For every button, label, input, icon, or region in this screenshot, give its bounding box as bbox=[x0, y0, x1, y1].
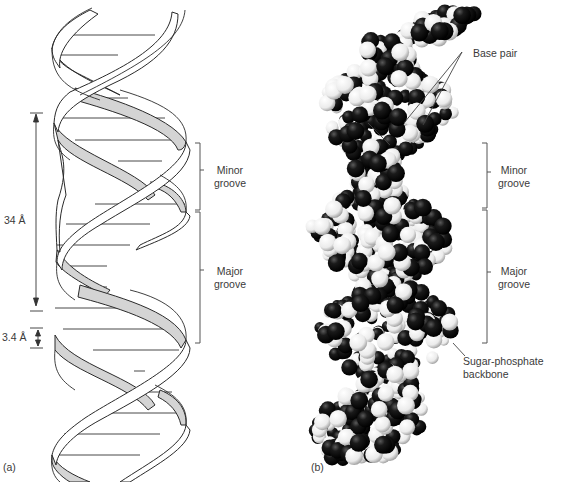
ribbon-helix-drawing bbox=[0, 0, 290, 482]
major-groove-label-a: Major groove bbox=[208, 265, 252, 291]
atom-light bbox=[391, 43, 409, 61]
atom-dark bbox=[327, 322, 345, 340]
groove-brackets-a bbox=[195, 143, 204, 343]
atom-dark bbox=[369, 155, 387, 173]
atom-dark bbox=[453, 6, 471, 24]
atom-light bbox=[399, 419, 415, 435]
panel-a-letter: (a) bbox=[3, 461, 16, 473]
atom-light bbox=[358, 205, 375, 222]
atom-light bbox=[377, 333, 395, 351]
panel-b-letter: (b) bbox=[311, 461, 324, 473]
atom-dark bbox=[328, 254, 346, 272]
atom-dark bbox=[352, 294, 370, 312]
atom-light bbox=[360, 59, 377, 76]
atom-dark bbox=[373, 102, 391, 120]
atom-dark bbox=[376, 57, 394, 75]
atom-light bbox=[314, 413, 331, 430]
atom-dark bbox=[387, 296, 404, 313]
base-spacing-label: 3.4 Å bbox=[2, 331, 27, 344]
atom-dark bbox=[374, 436, 392, 454]
atom-light bbox=[359, 42, 376, 59]
atom-light bbox=[349, 334, 367, 352]
atom-light bbox=[359, 85, 377, 103]
minor-groove-label-a-line1: Minor bbox=[208, 164, 252, 177]
atom-dark bbox=[427, 233, 445, 251]
atom-dark bbox=[357, 411, 374, 428]
base-pair-label: Base pair bbox=[473, 47, 517, 60]
atom-light bbox=[378, 385, 395, 402]
atom-dark bbox=[389, 108, 407, 126]
atom-dark bbox=[416, 115, 434, 133]
atom-dark bbox=[341, 359, 357, 375]
atom-dark bbox=[352, 106, 369, 123]
atom-dark bbox=[414, 199, 432, 217]
atom-light bbox=[371, 270, 388, 287]
atom-light bbox=[426, 351, 439, 364]
atom-dark bbox=[398, 141, 413, 156]
backbone-label: Sugar-phosphate backbone bbox=[463, 355, 544, 381]
atom-dark bbox=[347, 122, 365, 140]
atom-dark bbox=[387, 164, 405, 182]
minor-groove-label-b-line1: Minor bbox=[492, 164, 536, 177]
atom-light bbox=[383, 197, 401, 215]
atom-light bbox=[333, 236, 351, 254]
atom-light bbox=[390, 70, 407, 87]
major-groove-label-b: Major groove bbox=[492, 265, 536, 291]
major-groove-label-a-line2: groove bbox=[208, 278, 252, 291]
minor-groove-label-b-line2: groove bbox=[492, 177, 536, 190]
atom-light bbox=[386, 366, 403, 383]
atom-dark bbox=[360, 371, 378, 389]
atom-light bbox=[436, 91, 453, 108]
atom-dark bbox=[350, 434, 368, 452]
major-groove-label-b-line1: Major bbox=[492, 265, 536, 278]
atom-dark bbox=[431, 300, 448, 317]
atom-dark bbox=[434, 217, 451, 234]
atom-light bbox=[441, 313, 458, 330]
atom-dark bbox=[350, 392, 368, 410]
atom-light bbox=[371, 401, 388, 418]
atom-light bbox=[374, 416, 390, 432]
atom-dark bbox=[407, 313, 425, 331]
atom-light bbox=[330, 410, 347, 427]
pitch-dimension-arrow bbox=[30, 113, 43, 311]
atom-dark bbox=[382, 225, 400, 243]
atom-dark bbox=[351, 253, 368, 270]
atom-dark bbox=[431, 22, 449, 40]
backbone-label-line1: Sugar-phosphate bbox=[463, 355, 544, 368]
atom-light bbox=[400, 227, 416, 243]
atom-light bbox=[314, 218, 331, 235]
backbone-label-line2: backbone bbox=[463, 368, 544, 381]
atom-dark bbox=[425, 319, 443, 337]
atom-light bbox=[402, 363, 419, 380]
atom-dark bbox=[326, 303, 342, 319]
pitch-label: 34 Å bbox=[4, 214, 26, 227]
atom-light bbox=[325, 200, 343, 218]
atom-dark bbox=[414, 244, 431, 261]
base-spacing-dimension-arrow bbox=[30, 328, 43, 348]
strand-back-shaded bbox=[52, 48, 186, 482]
major-groove-label-b-line2: groove bbox=[492, 278, 536, 291]
panel-a-ribbon-helix: 34 Å 3.4 Å Minor groove Major groove (a) bbox=[0, 0, 290, 482]
space-filling-atoms bbox=[290, 0, 573, 482]
atom-cluster bbox=[306, 4, 482, 466]
minor-groove-label-a-line2: groove bbox=[208, 177, 252, 190]
atom-dark bbox=[355, 190, 372, 207]
groove-brackets-b bbox=[482, 143, 491, 343]
panel-b-space-filling-model: Base pair Minor groove Major groove Suga… bbox=[290, 0, 573, 482]
minor-groove-label-a: Minor groove bbox=[208, 164, 252, 190]
atom-dark bbox=[347, 160, 365, 178]
minor-groove-label-b: Minor groove bbox=[492, 164, 536, 190]
atom-light bbox=[397, 397, 415, 415]
atom-light bbox=[378, 243, 396, 261]
major-groove-label-a-line1: Major bbox=[208, 265, 252, 278]
atom-light bbox=[336, 76, 354, 94]
strand-front-light bbox=[52, 10, 190, 482]
